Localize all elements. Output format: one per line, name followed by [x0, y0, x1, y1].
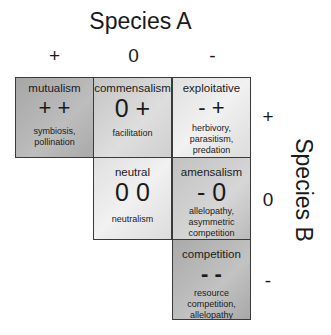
species-a-title: Species A	[0, 8, 331, 35]
species-b-sign-zero: 0	[258, 189, 278, 211]
cell-examples: neutralism	[94, 214, 171, 225]
species-b-title: Species B	[290, 130, 317, 250]
cell-name: competition	[173, 248, 250, 260]
cell-neutral: neutral 0 0 neutralism	[93, 157, 172, 240]
cell-name: neutral	[94, 166, 171, 178]
species-a-sign-zero: 0	[94, 45, 173, 67]
cell-sign: - 0	[173, 180, 250, 204]
cell-name: exploitative	[173, 82, 250, 94]
cell-examples: allelopathy, asymmetric competition	[173, 206, 250, 239]
cell-mutualism: mutualism + + symbiosis, pollination	[15, 77, 94, 158]
cell-examples: resource competition, allelopathy	[173, 288, 250, 320]
cell-examples: symbiosis, pollination	[16, 126, 93, 148]
cell-commensalism: commensalism 0 + facilitation	[93, 77, 172, 158]
cell-examples: herbivory, parasitism, predation	[173, 123, 250, 156]
species-b-sign-plus: +	[258, 106, 278, 128]
cell-name: amensalism	[173, 166, 250, 178]
species-a-sign-minus: -	[173, 45, 252, 67]
cell-sign: 0 +	[94, 96, 171, 120]
cell-competition: competition - - resource competition, al…	[172, 239, 251, 320]
species-b-sign-minus: -	[258, 270, 278, 292]
cell-sign: - +	[173, 96, 250, 120]
cell-sign: - -	[173, 262, 250, 286]
cell-name: mutualism	[16, 82, 93, 94]
cell-name: commensalism	[94, 82, 171, 94]
cell-amensalism: amensalism - 0 allelopathy, asymmetric c…	[172, 157, 251, 240]
cell-sign: 0 0	[94, 180, 171, 204]
cell-examples: facilitation	[94, 128, 171, 139]
cell-sign: + +	[16, 96, 93, 120]
species-a-sign-plus: +	[15, 45, 94, 67]
cell-exploitative: exploitative - + herbivory, parasitism, …	[172, 77, 251, 158]
